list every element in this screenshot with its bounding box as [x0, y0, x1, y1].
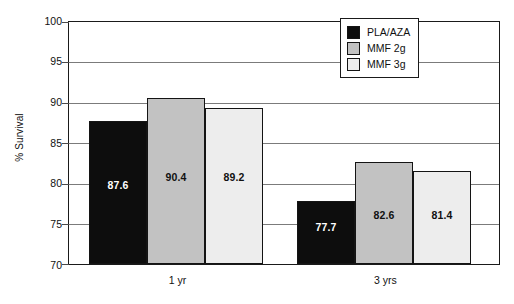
legend-item-mmf-2g: MMF 2g [347, 40, 410, 56]
bar-value-label: 89.2 [206, 171, 262, 183]
bar-value-label: 77.7 [298, 221, 354, 233]
y-axis-title: % Survival [14, 88, 25, 188]
legend-label-pla-aza: PLA/AZA [367, 27, 410, 38]
y-axis-tick-labels: 100 95 90 85 80 75 70 [34, 0, 62, 304]
x-tick-label-3yrs: 3 yrs [328, 274, 443, 286]
legend-item-pla-aza: PLA/AZA [347, 24, 410, 40]
y-tick-label-70: 70 [36, 260, 62, 271]
tick-mark-75 [62, 224, 69, 225]
bar-1-yr-pla-aza: 87.6 [89, 121, 147, 264]
legend-swatch-mmf-3g [347, 58, 360, 71]
legend: PLA/AZA MMF 2g MMF 3g [340, 18, 419, 78]
y-tick-label-95: 95 [36, 56, 62, 67]
tick-mark-70 [62, 264, 69, 265]
bar-value-label: 87.6 [90, 179, 146, 191]
y-tick-label-75: 75 [36, 219, 62, 230]
bar-1-yr-mmf-2g: 90.4 [147, 98, 205, 264]
legend-swatch-pla-aza [347, 26, 360, 39]
tick-mark-80 [62, 184, 69, 185]
bar-value-label: 90.4 [148, 171, 204, 183]
bar-3-yrs-pla-aza: 77.7 [297, 201, 355, 264]
bar-3-yrs-mmf-3g: 81.4 [413, 171, 471, 264]
y-tick-label-90: 90 [36, 97, 62, 108]
survival-bar-chart: % Survival 100 95 90 85 80 75 70 87.690.… [0, 0, 514, 304]
bar-value-label: 82.6 [356, 209, 412, 221]
bar-3-yrs-mmf-2g: 82.6 [355, 162, 413, 264]
tick-mark-90 [62, 103, 69, 104]
tick-mark-95 [62, 62, 69, 63]
legend-label-mmf-2g: MMF 2g [367, 43, 406, 54]
tick-mark-85 [62, 143, 69, 144]
bar-value-label: 81.4 [414, 209, 470, 221]
tick-mark-100 [62, 22, 69, 23]
legend-label-mmf-3g: MMF 3g [367, 59, 406, 70]
bar-1-yr-mmf-3g: 89.2 [205, 108, 263, 264]
legend-swatch-mmf-2g [347, 42, 360, 55]
x-tick-label-1yr: 1 yr [120, 274, 235, 286]
plot-area: 87.690.489.277.782.681.4 [68, 21, 500, 265]
y-tick-label-80: 80 [36, 178, 62, 189]
bars-layer: 87.690.489.277.782.681.4 [69, 22, 499, 264]
y-tick-label-85: 85 [36, 138, 62, 149]
legend-item-mmf-3g: MMF 3g [347, 56, 410, 72]
y-tick-label-100: 100 [36, 16, 62, 27]
